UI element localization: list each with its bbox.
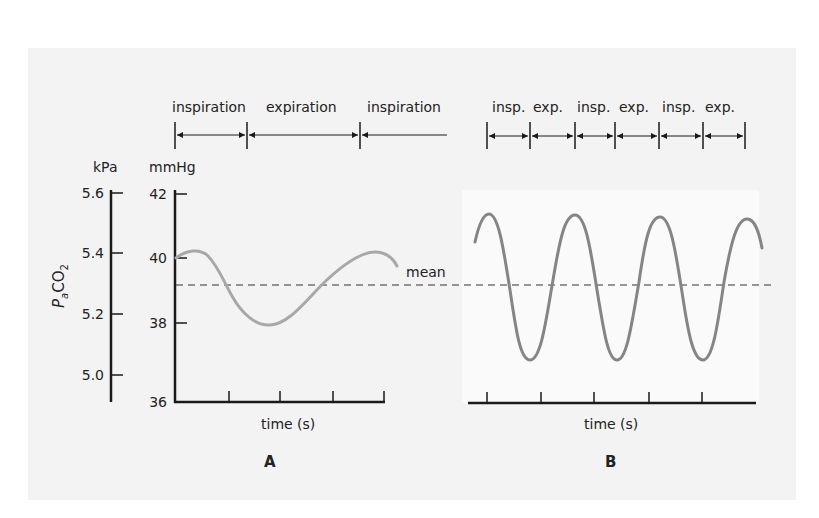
axes-a [174, 190, 385, 403]
ylabel-co: CO [50, 270, 68, 292]
phase-label-b-1: insp. [492, 99, 525, 115]
mmhg-tick-36: 36 [137, 394, 167, 410]
mmhg-tick-40: 40 [137, 250, 167, 266]
panel-letter-b: B [605, 453, 616, 471]
axes-b [468, 392, 756, 403]
y-axis-label: PaCO2 [50, 256, 70, 316]
mean-label: mean [406, 264, 446, 280]
x-axis-label-b: time (s) [584, 416, 638, 432]
mmhg-tick-38: 38 [137, 315, 167, 331]
kpa-tick-5.0: 5.0 [74, 367, 104, 383]
phase-label-b-4: exp. [619, 99, 649, 115]
phase-label-b-3: insp. [577, 99, 610, 115]
x-axis-label-a: time (s) [261, 416, 315, 432]
figure-graphics [0, 0, 819, 518]
ylabel-2: 2 [59, 264, 70, 270]
curve-a [176, 251, 397, 325]
curve-b [475, 214, 762, 360]
phase-label-a-3: inspiration [367, 99, 441, 115]
units-kpa: kPa [93, 159, 118, 175]
phase-label-a-1: inspiration [172, 99, 246, 115]
kpa-tick-5.2: 5.2 [74, 306, 104, 322]
phase-label-b-6: exp. [705, 99, 735, 115]
kpa-axis [111, 190, 123, 402]
panel-letter-a: A [264, 453, 276, 471]
phase-label-a-2: expiration [266, 99, 337, 115]
kpa-tick-5.4: 5.4 [74, 245, 104, 261]
phase-bar-b [487, 122, 745, 149]
ylabel-p: P [50, 299, 68, 308]
mmhg-tick-42: 42 [137, 186, 167, 202]
ylabel-a: a [59, 293, 70, 299]
phase-bar-a [175, 122, 447, 149]
units-mmhg: mmHg [149, 159, 196, 175]
phase-label-b-5: insp. [662, 99, 695, 115]
kpa-tick-5.6: 5.6 [74, 185, 104, 201]
phase-label-b-2: exp. [533, 99, 563, 115]
